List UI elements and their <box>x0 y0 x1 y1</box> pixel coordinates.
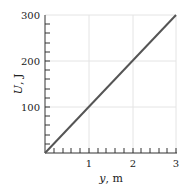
y-tick-300: 300 <box>21 10 40 21</box>
y-ticks <box>45 24 50 144</box>
x-tick-1: 1 <box>86 158 92 169</box>
chart: 300 200 100 1 2 3 y, m U, J <box>0 0 188 187</box>
x-tick-2: 2 <box>130 158 136 169</box>
x-axis-label: y, m <box>98 172 123 185</box>
y-tick-200: 200 <box>21 56 40 67</box>
x-tick-3: 3 <box>173 158 179 169</box>
y-axis-label: U, J <box>12 74 25 95</box>
data-line <box>45 15 176 153</box>
y-tick-100: 100 <box>21 102 40 113</box>
x-ticks <box>54 148 176 153</box>
